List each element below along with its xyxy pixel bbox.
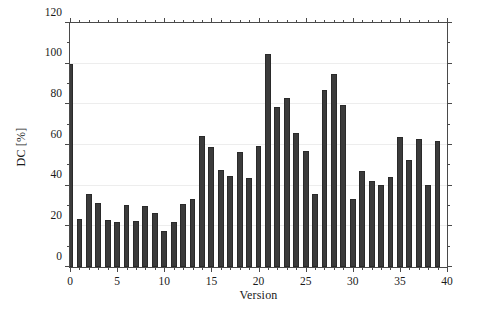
chart-figure: DC [%] Version 0204060801001200510152025… — [0, 0, 478, 318]
x-tick-minor — [79, 267, 80, 270]
x-tick-minor — [277, 267, 278, 270]
x-tick-label: 10 — [159, 275, 171, 287]
y-tick-right — [447, 103, 452, 104]
x-tick-top-minor — [438, 20, 439, 23]
bar — [425, 185, 431, 267]
x-tick-minor — [334, 267, 335, 270]
bar — [397, 137, 403, 267]
x-tick-minor — [287, 267, 288, 270]
y-tick — [65, 103, 70, 104]
x-tick-top — [164, 18, 165, 23]
x-tick-top-minor — [155, 20, 156, 23]
x-tick-top-minor — [183, 20, 184, 23]
x-tick-top-minor — [277, 20, 278, 23]
x-tick-minor — [108, 267, 109, 270]
x-tick-minor — [202, 267, 203, 270]
bar — [284, 98, 290, 267]
x-tick-label: 5 — [114, 275, 120, 287]
x-tick-top-minor — [362, 20, 363, 23]
bar — [293, 133, 299, 267]
x-tick-top-minor — [108, 20, 109, 23]
bar — [171, 222, 177, 267]
bar — [435, 141, 441, 267]
x-tick-minor — [221, 267, 222, 270]
y-tick-label: 80 — [51, 87, 63, 99]
x-tick-top-minor — [268, 20, 269, 23]
x-tick-minor — [409, 267, 410, 270]
x-tick-minor — [428, 267, 429, 270]
x-tick-minor — [136, 267, 137, 270]
x-tick-minor — [362, 267, 363, 270]
y-tick-right-minor — [447, 83, 450, 84]
bar — [70, 64, 73, 267]
x-tick — [306, 267, 307, 272]
x-tick-top-minor — [127, 20, 128, 23]
x-tick-minor — [381, 267, 382, 270]
x-tick-top — [259, 18, 260, 23]
x-tick-minor — [268, 267, 269, 270]
bar — [208, 147, 214, 267]
y-tick-minor — [67, 164, 70, 165]
bar — [369, 181, 375, 267]
x-tick — [400, 267, 401, 272]
bar — [105, 220, 111, 267]
x-tick-minor — [390, 267, 391, 270]
y-tick-label: 100 — [45, 46, 62, 58]
x-tick-minor — [419, 267, 420, 270]
bar — [152, 213, 158, 267]
x-tick-top-minor — [221, 20, 222, 23]
y-tick-right-minor — [447, 205, 450, 206]
x-tick-top — [400, 18, 401, 23]
x-tick-top-minor — [240, 20, 241, 23]
bar — [218, 170, 224, 267]
y-tick-label: 0 — [56, 250, 62, 262]
x-tick-minor — [324, 267, 325, 270]
x-tick-top-minor — [315, 20, 316, 23]
x-tick-minor — [240, 267, 241, 270]
bar — [161, 231, 167, 267]
x-tick-top-minor — [98, 20, 99, 23]
x-tick-top-minor — [89, 20, 90, 23]
x-tick-top-minor — [193, 20, 194, 23]
x-tick-top-minor — [230, 20, 231, 23]
bar — [180, 204, 186, 267]
y-tick-minor — [67, 246, 70, 247]
bar — [190, 199, 196, 267]
y-tick-label: 60 — [51, 128, 63, 140]
x-tick-label: 40 — [441, 275, 453, 287]
x-tick — [447, 267, 448, 272]
x-tick-top-minor — [409, 20, 410, 23]
bar — [114, 222, 120, 267]
x-tick-minor — [145, 267, 146, 270]
x-tick-top-minor — [390, 20, 391, 23]
x-tick-top-minor — [249, 20, 250, 23]
x-tick-top-minor — [287, 20, 288, 23]
bar — [237, 152, 243, 267]
y-tick — [65, 63, 70, 64]
x-tick-minor — [98, 267, 99, 270]
x-tick-minor — [343, 267, 344, 270]
x-tick-minor — [230, 267, 231, 270]
x-tick-top-minor — [79, 20, 80, 23]
bar — [406, 160, 412, 267]
x-tick-minor — [249, 267, 250, 270]
bar — [86, 194, 92, 267]
x-tick-label: 25 — [300, 275, 312, 287]
x-tick-label: 0 — [67, 275, 73, 287]
x-tick — [211, 267, 212, 272]
x-tick-top-minor — [145, 20, 146, 23]
bar — [227, 176, 233, 268]
y-tick-right-minor — [447, 246, 450, 247]
y-tick-minor — [67, 124, 70, 125]
x-tick-label: 35 — [394, 275, 406, 287]
y-tick-right-minor — [447, 42, 450, 43]
x-tick-minor — [193, 267, 194, 270]
x-tick-minor — [438, 267, 439, 270]
y-tick — [65, 225, 70, 226]
y-tick-label: 120 — [45, 6, 62, 18]
bar — [359, 171, 365, 267]
x-tick-minor — [372, 267, 373, 270]
y-tick-right — [447, 63, 452, 64]
x-tick-label: 15 — [206, 275, 218, 287]
x-tick-top-minor — [174, 20, 175, 23]
